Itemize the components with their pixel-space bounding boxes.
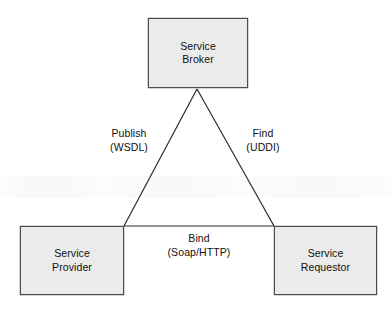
node-requestor-label-line2: Requestor <box>301 261 350 275</box>
edge-line-publish <box>124 89 197 226</box>
edge-label-bind-line1: Bind <box>160 231 238 245</box>
node-broker-label-line1: Service <box>180 40 216 54</box>
edge-label-find: Find (UDDI) <box>232 126 294 154</box>
node-broker-label-line2: Broker <box>182 53 214 67</box>
diagram-canvas: Service Broker Service Provider Service … <box>0 0 392 312</box>
node-service-broker[interactable]: Service Broker <box>148 18 248 88</box>
edge-label-publish-line1: Publish <box>98 126 160 140</box>
edge-label-publish: Publish (WSDL) <box>98 126 160 154</box>
node-service-provider[interactable]: Service Provider <box>20 226 124 295</box>
edge-label-find-line2: (UDDI) <box>232 140 294 154</box>
edge-label-bind: Bind (Soap/HTTP) <box>160 231 238 259</box>
node-requestor-label-line1: Service <box>308 247 344 261</box>
node-provider-label-line1: Service <box>54 247 90 261</box>
node-service-requestor[interactable]: Service Requestor <box>274 226 377 295</box>
edge-label-bind-line2: (Soap/HTTP) <box>160 245 238 259</box>
node-provider-label-line2: Provider <box>52 261 92 275</box>
edge-label-publish-line2: (WSDL) <box>98 140 160 154</box>
edge-label-find-line1: Find <box>232 126 294 140</box>
edge-line-find <box>197 89 274 226</box>
